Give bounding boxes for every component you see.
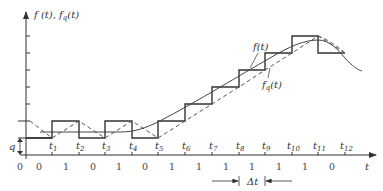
svg-text:t11: t11	[313, 140, 326, 153]
svg-text:1: 1	[223, 161, 229, 172]
svg-text:f(t): f(t)	[252, 41, 269, 52]
svg-text:1: 1	[63, 161, 69, 172]
svg-text:1: 1	[302, 161, 308, 172]
q-step-indicator: q	[9, 138, 26, 155]
y-axis: f (t), fq(t)	[18, 9, 79, 159]
staircase-signal	[26, 36, 345, 138]
svg-text:t2: t2	[76, 140, 85, 153]
svg-text:1: 1	[116, 161, 122, 172]
svg-text:t4: t4	[129, 140, 138, 153]
svg-text:0: 0	[329, 161, 335, 172]
svg-text:t7: t7	[209, 140, 218, 153]
f-curve	[40, 40, 362, 132]
svg-text:0: 0	[36, 161, 42, 172]
delta-t-label: Δt	[246, 176, 259, 187]
svg-text:1: 1	[169, 161, 175, 172]
svg-text:1: 1	[249, 161, 255, 172]
svg-text:t3: t3	[102, 140, 111, 153]
delta-t-indicator: Δt	[212, 176, 292, 187]
svg-text:t1: t1	[49, 140, 58, 153]
svg-text:t9: t9	[262, 140, 271, 153]
delta-modulation-diagram: f (t), fq(t) t t1 t2 t3 t4 t5 t6 t7 t8 t…	[0, 0, 383, 191]
svg-text:0: 0	[90, 161, 96, 172]
svg-text:0: 0	[142, 161, 148, 172]
time-tick-labels: t1 t2 t3 t4 t5 t6 t7 t8 t9 t10 t11 t12	[49, 140, 353, 153]
y-axis-label: f (t), fq(t)	[33, 9, 79, 22]
svg-text:0: 0	[17, 161, 23, 172]
svg-text:t12: t12	[340, 140, 353, 153]
q-label: q	[9, 141, 15, 152]
svg-text:1: 1	[196, 161, 202, 172]
x-axis-label: t	[365, 161, 370, 172]
bit-sequence: 0 0 1 0 1 0 1 1 1 1 1 1 0	[17, 161, 335, 172]
svg-text:t6: t6	[182, 140, 191, 153]
svg-text:t10: t10	[287, 140, 300, 153]
svg-text:1: 1	[276, 161, 282, 172]
fq-dashed-curve	[30, 36, 345, 138]
svg-text:t5: t5	[155, 140, 164, 153]
svg-text:fq(t): fq(t)	[261, 79, 282, 92]
svg-text:t8: t8	[236, 140, 245, 153]
